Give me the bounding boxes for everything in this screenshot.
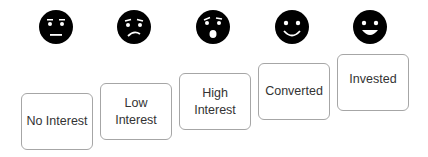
neutral-face-icon — [38, 9, 74, 45]
smiling-face-icon — [274, 9, 310, 45]
stage-label: High Interest — [194, 85, 236, 119]
surprised-face-icon — [195, 9, 231, 45]
stage-box-no-interest: No Interest — [21, 93, 93, 150]
stage-label: Low Interest — [115, 95, 157, 129]
grinning-face-icon — [352, 9, 388, 45]
stage-label: Converted — [265, 83, 323, 100]
stage-box-converted: Converted — [258, 63, 330, 120]
stage-box-low-interest: Low Interest — [100, 83, 172, 140]
stage-label: No Interest — [26, 113, 87, 130]
stage-label: Invested — [349, 71, 396, 88]
worried-face-icon — [116, 9, 152, 45]
stage-box-high-interest: High Interest — [179, 73, 251, 130]
stage-box-invested: Invested — [337, 54, 409, 111]
